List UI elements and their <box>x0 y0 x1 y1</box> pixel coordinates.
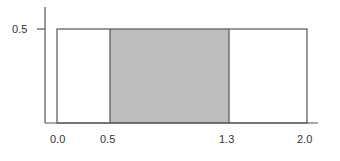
shaded-region <box>110 29 229 123</box>
x-tick-label: 2.0 <box>297 133 312 145</box>
x-tick-label: 0.5 <box>100 133 115 145</box>
x-tick-label: 1.3 <box>219 133 234 145</box>
x-tick-label: 0.0 <box>50 133 65 145</box>
y-tick-label: 0.5 <box>12 23 27 35</box>
uniform-distribution-chart: 0.5 0.0 0.5 1.3 2.0 <box>0 0 340 161</box>
